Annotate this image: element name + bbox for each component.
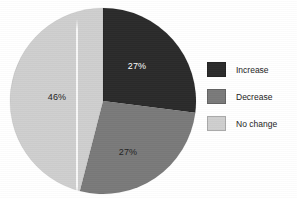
pie-svg: 27% 27% 46% (9, 7, 197, 195)
legend-label-decrease: Decrease (236, 92, 272, 102)
pie-slices (10, 8, 196, 194)
slice-label-increase: 27% (128, 61, 147, 71)
legend-item-no-change: No change (207, 110, 293, 137)
legend-label-increase: Increase (236, 65, 269, 75)
legend-item-increase: Increase (207, 56, 293, 83)
pie-chart-plot-area: 27% 27% 46% (9, 7, 197, 195)
chart-legend: Increase Decrease No change (207, 56, 293, 137)
legend-label-no-change: No change (236, 119, 277, 129)
slice-label-no-change: 46% (48, 92, 67, 102)
slice-label-decrease: 27% (119, 147, 138, 157)
legend-item-decrease: Decrease (207, 83, 293, 110)
legend-swatch-increase-icon (207, 62, 226, 77)
legend-swatch-no-change-icon (207, 116, 226, 131)
pie-slice-increase (103, 8, 196, 113)
pie-chart-figure: 27% 27% 46% Increase Decrease No change (0, 0, 297, 198)
legend-swatch-decrease-icon (207, 89, 226, 104)
